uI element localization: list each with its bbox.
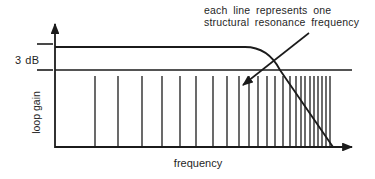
x-axis-label: frequency: [153, 157, 243, 169]
loop-gain-response-curve: [55, 47, 333, 147]
annotation-pointer-arrow: [243, 33, 309, 85]
y-axis-label: loop gain: [30, 81, 43, 145]
resonance-lines-group: [95, 76, 330, 147]
figure: each line represents one structural reso…: [0, 0, 375, 179]
annotation-text: each line represents one structural reso…: [204, 5, 359, 28]
annotation-text-line-2: structural resonance frequency: [204, 17, 359, 29]
three-db-label: 3 dB: [15, 54, 40, 66]
annotation-text-line-1: each line represents one: [204, 5, 359, 17]
